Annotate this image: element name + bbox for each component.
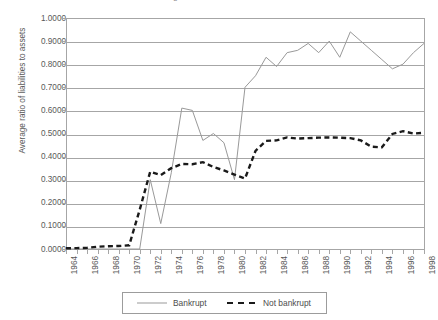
- legend-entry-bankrupt[interactable]: Bankrupt: [137, 293, 207, 313]
- x-axis-tick-mark: [382, 250, 383, 254]
- y-axis-tick-label: 0.8000: [20, 60, 66, 69]
- x-axis-tick-label: 1988: [322, 256, 331, 274]
- x-axis-tick-label: 1992: [364, 256, 373, 274]
- x-axis-tick-mark: [277, 250, 278, 254]
- y-axis-tick-label: 1.0000: [20, 14, 66, 23]
- legend-swatch-solid-line: [137, 298, 167, 308]
- x-axis-tick-label: 1984: [280, 256, 289, 274]
- y-axis-tick-label: 0.1000: [20, 221, 66, 230]
- legend-label-bankrupt: Bankrupt: [173, 298, 207, 308]
- x-axis-tick-mark: [319, 250, 320, 254]
- x-axis-tick-mark: [182, 250, 183, 254]
- x-axis-tick-label: 1970: [133, 256, 142, 274]
- x-axis-tick-mark: [361, 250, 362, 254]
- legend-label-not-bankrupt: Not bankrupt: [263, 298, 311, 308]
- y-axis-tick-label: 0.9000: [20, 37, 66, 46]
- x-axis-tick-mark: [298, 250, 299, 254]
- x-axis-tick-mark: [403, 250, 404, 254]
- x-axis-tick-label: 1966: [91, 256, 100, 274]
- y-axis-tick-label: 0.5000: [20, 129, 66, 138]
- series-line-bankrupt: [66, 32, 424, 249]
- x-axis-tick-mark: [308, 250, 309, 254]
- x-axis-tick-mark: [224, 250, 225, 254]
- x-axis-tick-mark: [245, 250, 246, 254]
- x-axis-tick-label: 1986: [301, 256, 310, 274]
- x-axis-tick-mark: [213, 250, 214, 254]
- y-axis-tick-label: 0.3000: [20, 175, 66, 184]
- x-axis-tick-label: 1982: [259, 256, 268, 274]
- x-axis-tick-mark: [150, 250, 151, 254]
- x-axis-tick-mark: [266, 250, 267, 254]
- x-axis-tick-mark: [392, 250, 393, 254]
- x-axis-tick-mark: [340, 250, 341, 254]
- x-axis-tick-mark: [329, 250, 330, 254]
- y-axis-tick-label: 0.4000: [20, 152, 66, 161]
- series-line-not-bankrupt: [66, 131, 424, 248]
- legend-entry-not-bankrupt[interactable]: Not bankrupt: [227, 293, 311, 313]
- x-axis-tick-mark: [87, 250, 88, 254]
- x-axis-tick-label: 1978: [217, 256, 226, 274]
- x-axis-tick-mark: [66, 250, 67, 254]
- x-axis-tick-mark: [234, 250, 235, 254]
- x-axis-tick-label: 1968: [112, 256, 121, 274]
- x-axis-tick-mark: [256, 250, 257, 254]
- x-axis-tick-label: 1996: [407, 256, 416, 274]
- chart-figure: Average ratio of liabilities to assets A…: [0, 0, 438, 320]
- x-axis-tick-mark: [371, 250, 372, 254]
- x-axis-tick-mark: [77, 250, 78, 254]
- x-axis-tick-mark: [203, 250, 204, 254]
- y-axis-tick-label: 0.2000: [20, 198, 66, 207]
- y-axis-tick-label: 0.7000: [20, 83, 66, 92]
- x-axis-tick-mark: [424, 250, 425, 254]
- chart-legend: Bankrupt Not bankrupt: [122, 292, 327, 314]
- x-axis-tick-mark: [140, 250, 141, 254]
- x-axis-tick-label: 1974: [175, 256, 184, 274]
- x-axis-tick-mark: [192, 250, 193, 254]
- x-axis-tick-label: 1972: [154, 256, 163, 274]
- x-axis-tick-mark: [98, 250, 99, 254]
- y-axis-tick-label: 0.6000: [20, 106, 66, 115]
- x-axis-tick-label: 1964: [70, 256, 79, 274]
- x-axis-tick-mark: [350, 250, 351, 254]
- y-axis-tick-label: 0.0000: [20, 245, 66, 254]
- x-axis-tick-mark: [413, 250, 414, 254]
- x-axis-tick-mark: [108, 250, 109, 254]
- data-series-layer: [66, 18, 425, 250]
- x-axis-tick-mark: [119, 250, 120, 254]
- x-axis-tick-label: 1990: [343, 256, 352, 274]
- x-axis-tick-label: 1998: [428, 256, 437, 274]
- x-axis-tick-label: 1976: [196, 256, 205, 274]
- x-axis-tick-mark: [171, 250, 172, 254]
- legend-swatch-dashed-line: [227, 298, 257, 308]
- x-axis-tick-mark: [161, 250, 162, 254]
- x-axis-tick-label: 1980: [238, 256, 247, 274]
- chart-title: Average ratio of liabilities to assets: [0, 0, 438, 2]
- x-axis-tick-mark: [129, 250, 130, 254]
- x-axis-tick-mark: [287, 250, 288, 254]
- x-axis-tick-label: 1994: [385, 256, 394, 274]
